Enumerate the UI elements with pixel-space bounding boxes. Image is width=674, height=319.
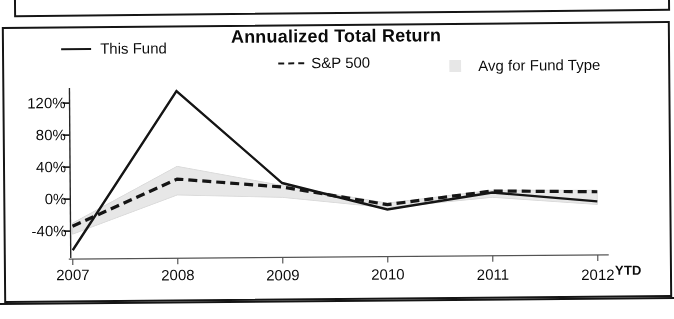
annualized-total-return-chart: Annualized Total Return This Fund S&P 50… (0, 0, 674, 319)
x-axis-tick-2009: 2009 (253, 267, 313, 282)
scanned-page: Annualized Total Return This Fund S&P 50… (0, 0, 674, 319)
x-axis-tick-2008: 2008 (148, 267, 208, 282)
x-axis-tick-2011: 2011 (463, 267, 523, 282)
x-axis-tick-labels: 200720082009201020112012 (0, 0, 674, 319)
x-axis-ytd-label: YTD (615, 263, 642, 278)
x-axis-tick-2010: 2010 (358, 267, 418, 282)
x-axis-tick-2007: 2007 (43, 267, 103, 282)
